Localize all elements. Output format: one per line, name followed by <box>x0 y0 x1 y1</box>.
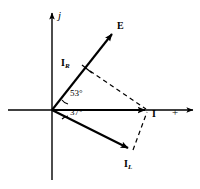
axis-label-plus: + <box>172 107 178 118</box>
vector-label-IL-subscript: L <box>128 163 132 171</box>
vector-label-I: I <box>152 109 156 119</box>
vector-label-IL: IL <box>124 159 132 171</box>
vector-IL <box>52 110 128 148</box>
angle-label-53: 53° <box>70 89 83 98</box>
vector-label-IR-subscript: R <box>65 62 70 70</box>
axis-label-j: j <box>58 10 61 21</box>
vector-label-IR: IR <box>61 58 70 70</box>
phasor-diagram-canvas <box>0 0 200 189</box>
vector-label-E: E <box>117 21 124 31</box>
vector-label-E-text: E <box>117 20 124 31</box>
vector-E <box>52 34 112 110</box>
angle-label-37: 37° <box>70 108 83 117</box>
angle-arc-53 <box>62 100 68 104</box>
vector-label-I-text: I <box>152 108 156 119</box>
phasor-diagram-figure: j + E IR I IL 53° 37° <box>0 0 200 189</box>
construction-line-IR-to-I <box>90 71 146 109</box>
construction-line-IL-to-I <box>133 112 147 150</box>
